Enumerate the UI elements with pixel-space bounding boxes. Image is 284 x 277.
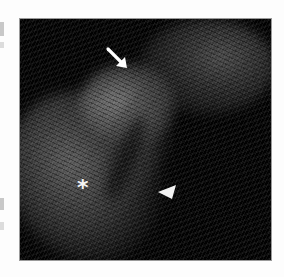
arrow-down-right-icon (105, 46, 131, 72)
speckle-texture (20, 19, 271, 260)
left-edge-mark (0, 198, 4, 210)
ultrasound-image: * (20, 19, 271, 260)
figure-page: * (0, 0, 284, 277)
arrowhead-left-icon (157, 184, 177, 200)
left-edge-mark (0, 22, 4, 36)
left-edge-mark (0, 222, 4, 230)
asterisk-marker: * (77, 177, 89, 199)
left-edge-mark (0, 42, 4, 48)
